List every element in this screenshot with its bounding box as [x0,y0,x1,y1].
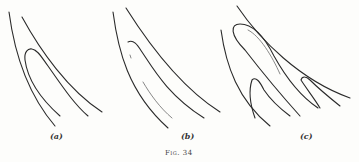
panel-a-label: (a) [50,131,63,141]
panel-c-label: (c) [300,131,312,141]
panel-b-drawing [113,8,220,128]
panel-c-drawing [221,6,350,126]
panel-b-label: (b) [181,131,194,141]
figure-caption: Fig. 34 [165,149,193,157]
panel-a-drawing [9,12,102,126]
